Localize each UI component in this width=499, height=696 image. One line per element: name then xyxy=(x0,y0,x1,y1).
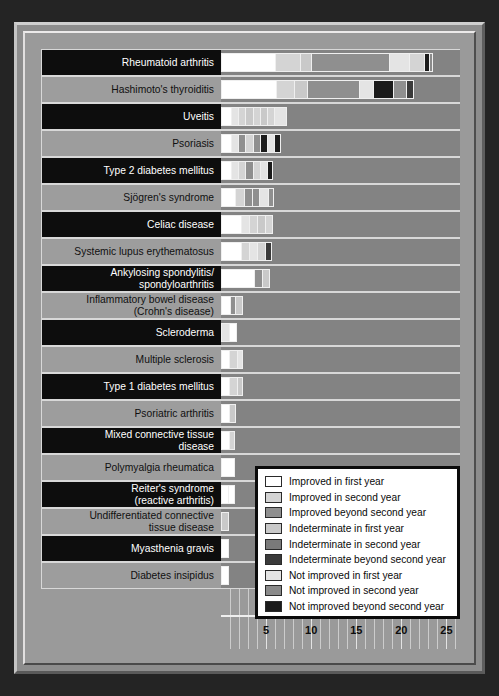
bar-segment xyxy=(241,242,249,261)
bar-segment xyxy=(257,242,265,261)
legend-item[interactable]: Not improved in first year xyxy=(265,568,451,584)
chart-row: Rheumatoid arthritis xyxy=(41,49,460,76)
legend-swatch xyxy=(265,554,282,565)
bar-track xyxy=(221,238,460,265)
category-label: Hashimoto's thyroiditis xyxy=(41,76,221,103)
legend-item[interactable]: Indeterminate in first year xyxy=(265,521,451,537)
bar-segment xyxy=(294,80,307,99)
category-label-line: Scleroderma xyxy=(156,327,214,339)
axis-tick-label: 25 xyxy=(440,624,452,636)
bar-segment xyxy=(228,485,235,504)
chart-row: Scleroderma xyxy=(41,319,460,346)
category-label-line: Psoriatric arthritis xyxy=(134,408,214,420)
bar-segment xyxy=(276,80,294,99)
bar-segment xyxy=(265,242,272,261)
bar-segment xyxy=(221,377,229,396)
legend-item[interactable]: Indeterminate in second year xyxy=(265,536,451,552)
plot-area: Rheumatoid arthritisHashimoto's thyroidi… xyxy=(41,49,460,649)
bar-segment xyxy=(393,80,406,99)
bar-segment xyxy=(429,53,433,72)
bar-segment xyxy=(221,269,254,288)
legend-item[interactable]: Not improved in second year xyxy=(265,583,451,599)
legend-label: Not improved beyond second year xyxy=(289,601,444,612)
bar-segment xyxy=(268,188,274,207)
bar-track xyxy=(221,400,460,427)
category-label: Undifferentiated connectivetissue diseas… xyxy=(41,508,221,535)
category-label-line: disease xyxy=(105,441,214,453)
bar-segment xyxy=(359,80,373,99)
bar-segment xyxy=(260,134,267,153)
category-label-line: Uveitis xyxy=(183,111,214,123)
bar-segment xyxy=(221,350,229,369)
bar-segment xyxy=(231,107,238,126)
bar-segment xyxy=(241,215,249,234)
category-label-line: Ankylosing spondylitis/ xyxy=(110,267,214,279)
category-label-line: Multiple sclerosis xyxy=(136,354,214,366)
bar-segment xyxy=(252,188,259,207)
stacked-bar xyxy=(221,215,273,234)
bar-segment xyxy=(389,53,410,72)
stacked-bar xyxy=(221,431,235,450)
bar-segment xyxy=(229,323,237,342)
bar-segment xyxy=(229,377,237,396)
bar-segment xyxy=(244,188,251,207)
category-label: Systemic lupus erythematosus xyxy=(41,238,221,265)
legend-swatch xyxy=(265,570,282,581)
stacked-bar xyxy=(221,404,236,423)
bar-track xyxy=(221,130,460,157)
bar-segment xyxy=(260,107,267,126)
bar-segment xyxy=(249,242,257,261)
bar-segment xyxy=(221,80,276,99)
bar-segment xyxy=(237,350,242,369)
chart-row: Type 2 diabetes mellitus xyxy=(41,157,460,184)
stacked-bar xyxy=(221,188,274,207)
legend-label: Not improved in second year xyxy=(289,585,419,596)
stacked-bar xyxy=(221,134,281,153)
stacked-bar xyxy=(221,53,433,72)
legend-item[interactable]: Improved in second year xyxy=(265,490,451,506)
legend-swatch xyxy=(265,601,282,612)
legend-item[interactable]: Indeterminate beyond second year xyxy=(265,552,451,568)
bar-segment xyxy=(221,404,229,423)
bar-segment xyxy=(253,161,260,180)
bar-segment xyxy=(221,539,229,558)
bar-segment xyxy=(221,458,235,477)
stacked-bar xyxy=(221,458,235,477)
category-label: Scleroderma xyxy=(41,319,221,346)
legend-item[interactable]: Improved in first year xyxy=(265,474,451,490)
stacked-bar xyxy=(221,539,229,558)
bar-track xyxy=(221,319,460,346)
chart-row: Multiple sclerosis xyxy=(41,346,460,373)
legend-label: Improved in second year xyxy=(289,492,401,503)
category-label: Ankylosing spondylitis/spondyloarthritis xyxy=(41,265,221,292)
category-label: Psoriatric arthritis xyxy=(41,400,221,427)
stacked-bar xyxy=(221,269,270,288)
bar-segment xyxy=(245,161,252,180)
chart-row: Hashimoto's thyroiditis xyxy=(41,76,460,103)
category-label-line: Inflammatory bowel disease xyxy=(86,294,214,306)
legend-label: Improved in first year xyxy=(289,476,384,487)
category-label-line: (reactive arthritis) xyxy=(131,495,214,507)
category-label-line: Sjögren's syndrome xyxy=(123,192,214,204)
bar-segment xyxy=(221,215,241,234)
category-label: Reiter's syndrome(reactive arthritis) xyxy=(41,481,221,508)
bar-segment xyxy=(300,53,311,72)
bar-segment xyxy=(221,512,229,531)
category-label: Celiac disease xyxy=(41,211,221,238)
legend-item[interactable]: Not improved beyond second year xyxy=(265,599,451,615)
bar-segment xyxy=(253,107,260,126)
category-label-line: spondyloarthritis xyxy=(110,279,214,291)
legend-label: Indeterminate in first year xyxy=(289,523,404,534)
stacked-bar xyxy=(221,323,237,342)
bar-segment xyxy=(238,134,245,153)
bar-segment xyxy=(229,350,237,369)
bar-track xyxy=(221,346,460,373)
bar-segment xyxy=(257,215,265,234)
legend-label: Indeterminate in second year xyxy=(289,539,420,550)
poster-outer-frame: Rheumatoid arthritisHashimoto's thyroidi… xyxy=(14,22,485,674)
chart-panel: Rheumatoid arthritisHashimoto's thyroidi… xyxy=(23,31,476,665)
legend-item[interactable]: Improved beyond second year xyxy=(265,505,451,521)
stacked-bar xyxy=(221,80,414,99)
category-label: Sjögren's syndrome xyxy=(41,184,221,211)
bar-segment xyxy=(245,107,252,126)
